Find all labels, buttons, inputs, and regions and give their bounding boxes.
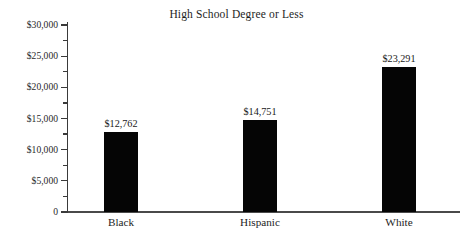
- y-tick-minor: [63, 40, 68, 41]
- y-tick-minor: [63, 196, 68, 197]
- y-tick-major: [61, 149, 68, 150]
- y-tick-major: [61, 24, 68, 25]
- y-tick-label: $10,000: [0, 144, 58, 155]
- bar-value-label: $23,291: [359, 53, 439, 64]
- bar-hispanic: [243, 120, 277, 212]
- x-category-label: White: [354, 216, 444, 228]
- bar-black: [104, 132, 138, 212]
- y-tick-minor: [63, 102, 68, 103]
- y-tick-label: 0: [0, 206, 58, 217]
- y-tick-label: $20,000: [0, 81, 58, 92]
- bar-chart: High School Degree or Less 0$5,000$10,00…: [0, 0, 473, 242]
- bar-value-label: $12,762: [81, 118, 161, 129]
- y-tick-major: [61, 118, 68, 119]
- chart-title: High School Degree or Less: [0, 8, 473, 20]
- x-category-label: Hispanic: [215, 216, 305, 228]
- y-tick-label: $15,000: [0, 113, 58, 124]
- y-tick-minor: [63, 71, 68, 72]
- y-tick-label: $30,000: [0, 19, 58, 30]
- y-tick-major: [61, 87, 68, 88]
- y-tick-label: $25,000: [0, 50, 58, 61]
- x-category-label: Black: [76, 216, 166, 228]
- bar-white: [382, 67, 416, 212]
- bar-value-label: $14,751: [220, 106, 300, 117]
- y-tick-minor: [63, 133, 68, 134]
- y-tick-major: [61, 211, 68, 212]
- y-tick-major: [61, 56, 68, 57]
- y-tick-label: $5,000: [0, 175, 58, 186]
- y-tick-minor: [63, 165, 68, 166]
- y-tick-major: [61, 180, 68, 181]
